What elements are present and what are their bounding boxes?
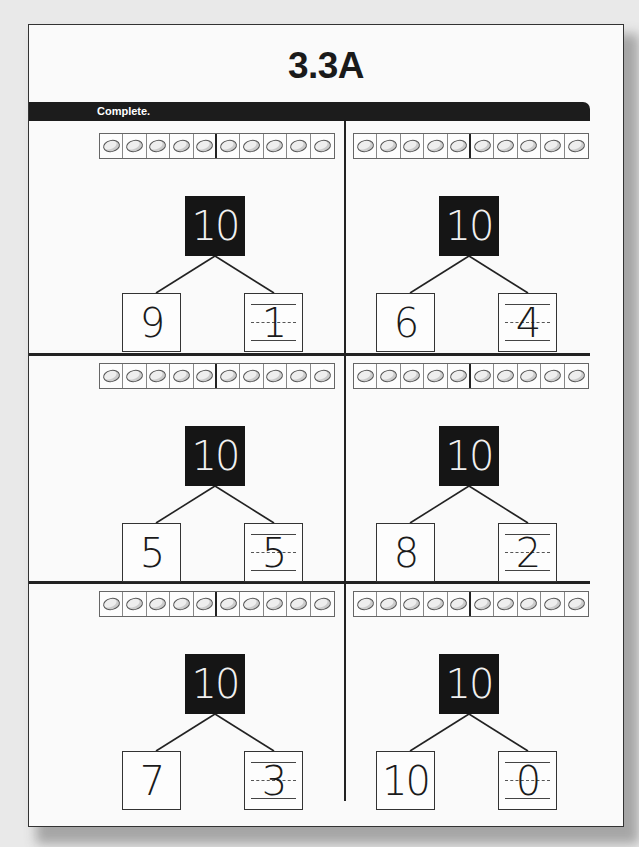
answer-part-box[interactable]: 0 (498, 751, 557, 810)
answer-part-box[interactable]: 4 (498, 293, 557, 352)
page-title: 3.3A (29, 45, 623, 87)
number-bond-problem-3: 1055 (99, 363, 349, 593)
whole-number-box: 10 (439, 196, 499, 256)
answer-value: 1 (262, 300, 285, 346)
whole-number-box: 10 (185, 426, 245, 486)
given-part-box: 9 (122, 293, 181, 352)
whole-number-box: 10 (185, 196, 245, 256)
answer-part-box[interactable]: 5 (244, 523, 303, 582)
answer-value: 2 (516, 530, 539, 576)
given-part-box: 5 (122, 523, 181, 582)
answer-value: 3 (262, 758, 285, 804)
whole-number-box: 10 (439, 654, 499, 714)
whole-number-box: 10 (185, 654, 245, 714)
number-bond-problem-1: 1091 (99, 133, 349, 363)
instruction-label: Complete. (97, 105, 150, 117)
answer-part-box[interactable]: 2 (498, 523, 557, 582)
given-part-box: 7 (122, 751, 181, 810)
worksheet-page: 3.3A Complete. 1091106410551082107310100 (28, 24, 624, 827)
instruction-band: Complete. (29, 102, 590, 121)
number-bond-problem-5: 1073 (99, 591, 349, 821)
answer-part-box[interactable]: 3 (244, 751, 303, 810)
answer-value: 0 (516, 758, 539, 804)
given-part-box: 8 (376, 523, 435, 582)
number-bond-problem-6: 10100 (353, 591, 603, 821)
number-bond-problem-4: 1082 (353, 363, 603, 593)
given-part-box: 10 (376, 751, 435, 810)
number-bond-problem-2: 1064 (353, 133, 603, 363)
answer-part-box[interactable]: 1 (244, 293, 303, 352)
whole-number-box: 10 (439, 426, 499, 486)
worksheet-stage: 3.3A Complete. 1091106410551082107310100 (0, 0, 639, 847)
answer-value: 5 (262, 530, 285, 576)
answer-value: 4 (516, 300, 539, 346)
given-part-box: 6 (376, 293, 435, 352)
